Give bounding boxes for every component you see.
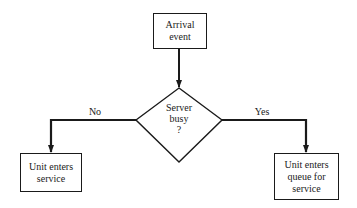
node-no-line2: service [29, 173, 73, 185]
arrowhead-icon [303, 145, 309, 153]
arrowhead-icon [48, 145, 54, 153]
node-yes-line1: Unit enters [284, 159, 328, 171]
arrowhead-icon [176, 80, 182, 88]
node-unit-enters-service: Unit enters service [20, 153, 82, 192]
node-unit-enters-queue: Unit enters queue for service [274, 153, 339, 200]
node-arrival-line2: event [166, 31, 195, 43]
decision-line2: busy [154, 113, 204, 124]
decision-line3: ? [154, 124, 204, 135]
node-arrival-event: Arrival event [153, 13, 207, 49]
node-arrival-line1: Arrival [166, 19, 195, 31]
node-yes-line3: service [284, 183, 328, 195]
edge-no [51, 120, 136, 152]
decision-line1: Server [154, 102, 204, 113]
node-no-line1: Unit enters [29, 161, 73, 173]
edge-yes-label: Yes [247, 106, 277, 118]
node-decision-text: Server busy ? [154, 102, 204, 135]
edge-no-label: No [80, 106, 110, 118]
edge-yes [222, 120, 306, 152]
node-yes-line2: queue for [284, 171, 328, 183]
